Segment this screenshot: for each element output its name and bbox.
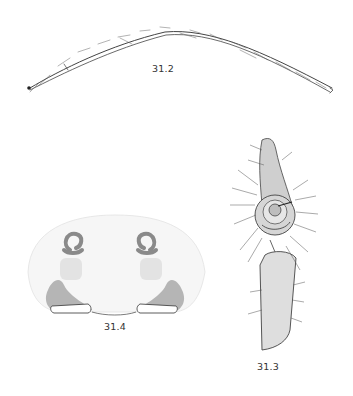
figure-label-31-3: 31.3 — [257, 361, 279, 372]
palp-drawing — [0, 0, 353, 396]
